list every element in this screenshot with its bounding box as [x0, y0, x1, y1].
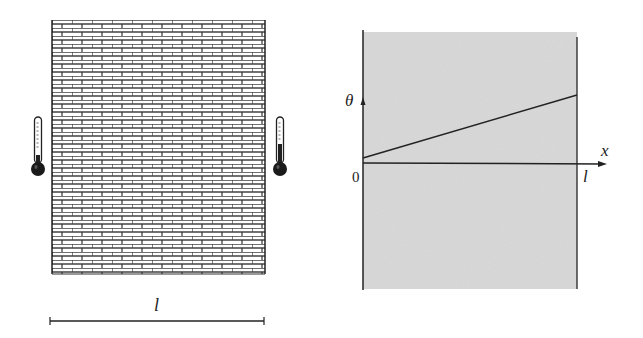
heat-conduction-figure: l θ x 0 l [0, 0, 643, 338]
wall-region-shading [363, 32, 577, 289]
wall-length-label: l [154, 296, 159, 314]
figure-canvas [0, 0, 643, 338]
origin-label: 0 [352, 170, 360, 185]
x-axis [363, 163, 603, 164]
brick-wall [52, 20, 265, 274]
thermometer-icon [273, 117, 287, 176]
thermometer-icon [31, 117, 45, 176]
temperature-profile-plot [361, 30, 608, 290]
x-axis-label: x [601, 142, 609, 159]
wall-length-scale-bar [50, 317, 264, 325]
theta-axis-label: θ [345, 92, 353, 109]
x-axis-arrow-icon [598, 161, 607, 167]
wall-end-label: l [583, 168, 588, 185]
